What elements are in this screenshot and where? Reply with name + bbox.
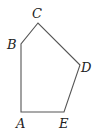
vertex-label-a: A — [15, 116, 25, 131]
pentagon-shape — [21, 23, 80, 112]
vertex-label-d: D — [80, 60, 92, 75]
vertex-label-e: E — [58, 116, 69, 131]
pentagon-diagram: A B C D E — [0, 0, 100, 139]
vertex-label-b: B — [6, 37, 17, 52]
vertex-label-c: C — [32, 6, 42, 21]
